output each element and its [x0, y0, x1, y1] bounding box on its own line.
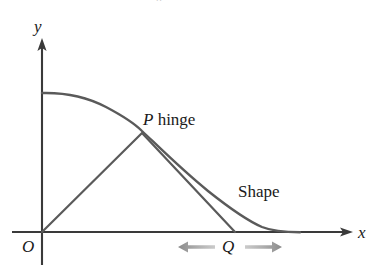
x-axis	[12, 227, 353, 236]
figure-canvas: p	[0, 0, 388, 275]
x-axis-label: x	[358, 224, 366, 241]
hinge-point-text: hinge	[158, 110, 196, 129]
arrow-left-icon	[178, 242, 215, 253]
hinge-point-symbol: P	[143, 110, 153, 129]
range-label-q: Q	[222, 238, 234, 255]
hinge-point-label: P hinge	[143, 111, 195, 128]
arrow-right-icon	[245, 242, 282, 253]
y-axis-label: y	[34, 18, 42, 35]
diagram-svg	[0, 0, 388, 275]
curve-label-shape: Shape	[238, 183, 280, 200]
hinge-polyline	[42, 133, 235, 232]
origin-label: O	[22, 238, 34, 255]
